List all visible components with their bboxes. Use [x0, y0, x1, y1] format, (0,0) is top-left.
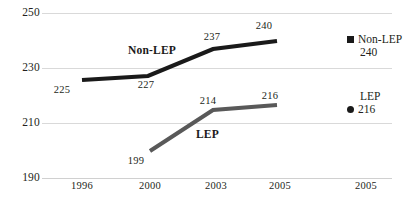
point-label-lep-2000: 199 [116, 155, 156, 166]
x-tick-2005-b: 2005 [336, 180, 396, 192]
legend-value-nonlep: 240 [347, 46, 402, 59]
point-label-nonlep-2000: 227 [126, 79, 166, 90]
gridline-230 [42, 68, 392, 69]
x-tick-2005-a: 2005 [250, 180, 310, 192]
y-tick-250-label: 250 [4, 7, 40, 19]
legend-item-nonlep[interactable]: Non-LEP 240 [347, 33, 402, 59]
point-label-nonlep-1996: 225 [42, 84, 82, 95]
gridline-250 [42, 13, 392, 14]
x-tick-1996: 1996 [52, 180, 112, 192]
series-label-lep: LEP [196, 128, 219, 140]
legend-label-row-lep: LEP [347, 90, 380, 103]
legend-item-lep[interactable]: LEP 216 [347, 90, 380, 116]
point-label-lep-2003: 214 [188, 95, 228, 106]
y-tick-190: 190 [0, 172, 40, 184]
legend-label-lep: LEP [360, 90, 380, 103]
y-tick-190-label: 190 [4, 172, 40, 184]
point-label-nonlep-2003: 237 [192, 31, 232, 42]
series-label-nonlep: Non-LEP [128, 44, 176, 56]
y-tick-230: 230 [0, 62, 40, 74]
y-tick-230-label: 230 [4, 62, 40, 74]
legend-label-nonlep: Non-LEP [358, 33, 402, 46]
y-tick-210: 210 [0, 117, 40, 129]
line-chart: 250 230 210 190 225 227 237 240 199 214 … [0, 0, 420, 211]
x-tick-2000: 2000 [120, 180, 180, 192]
x-tick-2003: 2003 [186, 180, 246, 192]
point-label-lep-2005: 216 [250, 90, 290, 101]
legend-row-nonlep: Non-LEP [347, 33, 402, 46]
point-label-nonlep-2005: 240 [244, 20, 284, 31]
series-line-nonlep [82, 41, 277, 80]
legend-value-lep: 216 [358, 103, 375, 116]
gridline-210 [42, 123, 392, 124]
square-marker-icon [347, 36, 354, 43]
y-tick-250: 250 [0, 7, 40, 19]
circle-marker-icon [347, 106, 354, 113]
gridline-190-axis [42, 178, 392, 179]
y-tick-210-label: 210 [4, 117, 40, 129]
legend-value-row-lep: 216 [347, 103, 380, 116]
